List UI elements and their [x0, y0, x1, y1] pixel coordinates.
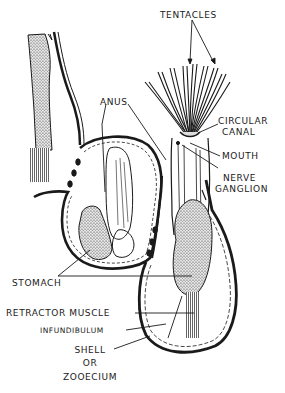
- label-circular-canal-line2: CANAL: [222, 127, 255, 137]
- upper-left-zooid: [28, 32, 84, 182]
- label-stomach: STOMACH: [12, 278, 61, 288]
- tentacle-tip-marks: [190, 60, 214, 63]
- label-infundibulum: INFUNDIBULUM: [40, 326, 104, 336]
- label-mouth: MOUTH: [222, 151, 259, 161]
- label-nerve-ganglion-line1: NERVE: [223, 173, 256, 183]
- label-tentacles: TENTACLES: [160, 10, 217, 20]
- label-shell-line1: SHELL: [70, 345, 110, 355]
- label-shell-line3: ZOOECIUM: [50, 372, 130, 382]
- main-zooid: [139, 64, 236, 352]
- middle-zooid: [34, 137, 161, 269]
- label-anus: ANUS: [100, 97, 128, 107]
- label-circular-canal-line1: CIRCULAR: [218, 116, 268, 126]
- label-shell-line2: OR: [70, 358, 110, 368]
- label-retractor-muscle: RETRACTOR MUSCLE: [6, 308, 110, 318]
- label-nerve-ganglion-line2: GANGLION: [215, 184, 268, 194]
